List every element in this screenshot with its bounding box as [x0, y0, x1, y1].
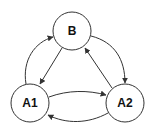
edge-b-to-a1 [40, 48, 62, 84]
edge-a2-to-a1 [48, 113, 108, 122]
edge-a1-to-a2 [49, 91, 106, 97]
edge-b-to-a2 [91, 36, 125, 83]
node-b-label: B [68, 24, 77, 38]
node-a2-label: A2 [117, 96, 133, 110]
node-b: B [53, 12, 91, 50]
node-a1-label: A1 [22, 96, 38, 110]
node-a2: A2 [106, 84, 144, 122]
edge-a1-to-b [25, 37, 53, 84]
edge-a2-to-b [85, 48, 112, 88]
state-diagram: B A1 A2 [0, 0, 152, 129]
node-a1: A1 [11, 84, 49, 122]
